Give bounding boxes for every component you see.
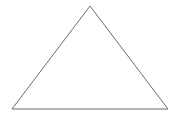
- diagram-canvas: [0, 0, 176, 120]
- triangle-shape: [12, 6, 168, 109]
